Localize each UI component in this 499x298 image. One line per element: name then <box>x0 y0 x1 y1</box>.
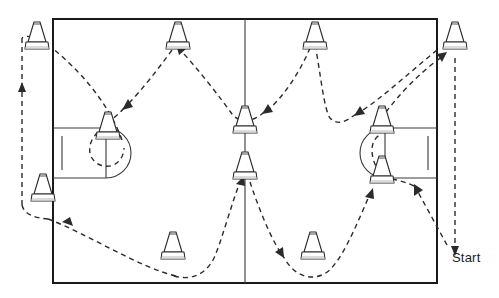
cone-top-right[interactable] <box>303 22 327 49</box>
cone-outside-left-mid[interactable] <box>31 174 55 201</box>
path-segment-bottomright-u-to-rightkey <box>282 194 370 277</box>
drill-path <box>18 36 459 277</box>
cone-top-left[interactable] <box>166 22 190 49</box>
court-markings <box>53 19 437 283</box>
cone-bottom-right[interactable] <box>301 232 325 259</box>
cone-right-key-upper[interactable] <box>370 106 394 133</box>
path-arrow-up-right-2 <box>365 188 374 199</box>
path-arrow-bottom-left <box>62 217 73 226</box>
court-diagram-svg <box>0 0 499 298</box>
path-segment-topright-to-center <box>268 48 310 110</box>
cone-bottom-left[interactable] <box>161 232 185 259</box>
cone-right-key-lower[interactable] <box>370 156 394 183</box>
path-segment-rightkey-to-outer-top <box>386 56 443 112</box>
drill-diagram-container: Start <box>0 0 499 298</box>
path-segment-center-to-bottom-right <box>250 182 280 252</box>
path-segment-center-to-top-left-cone <box>180 50 264 121</box>
cone-outside-top-left[interactable] <box>25 22 49 49</box>
cone-center-lower[interactable] <box>233 152 257 179</box>
path-segment-v-to-top-cone-right <box>316 50 356 122</box>
path-segment-topleft-to-leftkey <box>128 50 172 104</box>
path-arrow-outer-top-right <box>437 52 447 62</box>
path-segment-bottomleft-u-to-center <box>174 182 240 278</box>
path-segment-bottom-sweep <box>48 219 176 276</box>
path-segment-outer-top-to-topright-cone <box>360 50 437 112</box>
path-segment-left-outer-bottom-turn <box>22 205 48 219</box>
start-label: Start <box>452 250 480 265</box>
cone-outside-top-right[interactable] <box>443 22 467 49</box>
path-arrow-left-outer-up <box>18 82 26 92</box>
path-segment-start-to-right-key <box>418 192 447 245</box>
